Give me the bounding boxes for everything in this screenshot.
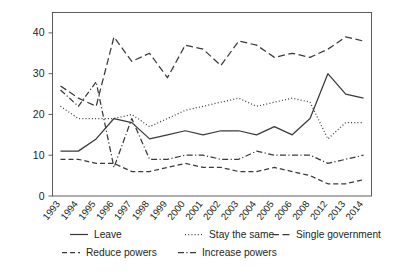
x-tick-label: 2013 bbox=[325, 198, 347, 222]
x-tick-label: 2003 bbox=[219, 198, 241, 222]
x-tick-label: 1994 bbox=[58, 198, 80, 222]
legend-label-leave: Leave bbox=[94, 229, 122, 240]
x-axis-ticks: 1993199419951996199719981999200020012002… bbox=[40, 198, 365, 222]
y-tick-label: 10 bbox=[33, 149, 45, 161]
legend-label-single-government: Single government bbox=[296, 229, 381, 240]
chart-canvas: 010203040 199319941995199619971998199920… bbox=[0, 0, 399, 274]
line-chart: Per cent 010203040 199319941995199619971… bbox=[0, 0, 399, 274]
series-line-leave bbox=[61, 74, 364, 151]
x-tick-label: 2014 bbox=[343, 198, 365, 222]
y-tick-label: 40 bbox=[33, 26, 45, 38]
x-tick-label: 2005 bbox=[254, 198, 276, 222]
legend-label-stay-the-same: Stay the same bbox=[209, 229, 274, 240]
series-lines bbox=[61, 37, 364, 184]
y-tick-label: 30 bbox=[33, 67, 45, 79]
x-tick-label: 1999 bbox=[147, 198, 169, 222]
x-tick-label: 2006 bbox=[272, 198, 294, 222]
y-axis-ticks: 010203040 bbox=[33, 26, 53, 201]
legend-label-increase-powers: Increase powers bbox=[202, 247, 277, 258]
x-tick-label: 1993 bbox=[40, 198, 62, 222]
legend-label-reduce-powers: Reduce powers bbox=[86, 247, 157, 258]
x-tick-label: 2000 bbox=[165, 198, 187, 222]
y-tick-label: 0 bbox=[39, 190, 45, 202]
series-line-single-government bbox=[61, 37, 364, 106]
x-tick-label: 2001 bbox=[183, 198, 205, 222]
x-tick-label: 1996 bbox=[94, 198, 116, 222]
x-tick-label: 2008 bbox=[290, 198, 312, 222]
x-tick-label: 1997 bbox=[112, 198, 134, 222]
x-tick-label: 1995 bbox=[76, 198, 98, 222]
y-tick-label: 20 bbox=[33, 108, 45, 120]
x-tick-label: 2012 bbox=[308, 198, 330, 222]
series-line-increase-powers bbox=[61, 82, 364, 168]
series-line-reduce-powers bbox=[61, 159, 364, 183]
x-tick-label: 1998 bbox=[129, 198, 151, 222]
chart-legend: LeaveStay the sameSingle governmentReduc… bbox=[62, 229, 381, 258]
x-tick-label: 2004 bbox=[236, 198, 258, 222]
x-tick-label: 2002 bbox=[201, 198, 223, 222]
